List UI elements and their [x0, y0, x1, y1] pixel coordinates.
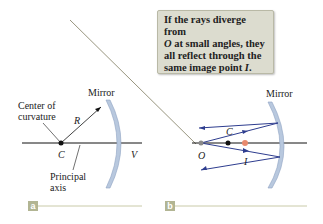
- callout-line1: If the rays diverge from: [164, 14, 267, 38]
- center-point-b: [226, 141, 231, 146]
- image-point-i: [242, 140, 248, 146]
- panel-b-tag: b: [165, 201, 175, 211]
- center-label-line1: Center of: [18, 100, 56, 111]
- mirror-label-a: Mirror: [88, 87, 115, 98]
- v-label: V: [131, 149, 137, 160]
- center-label-line2: curvature: [18, 111, 56, 122]
- c-label-b: C: [226, 126, 233, 137]
- c-label-a: C: [58, 149, 65, 160]
- mirror-b: [268, 102, 284, 188]
- axis-label-line1: Principal: [50, 171, 86, 182]
- axis-label-line2: axis: [50, 182, 66, 193]
- callout-box: If the rays diverge from O at small angl…: [157, 10, 274, 74]
- mirror-a: [106, 100, 121, 188]
- center-point: [59, 141, 64, 146]
- radius-arrow: [61, 107, 101, 143]
- object-point-o: [199, 141, 204, 146]
- o-label: O: [198, 150, 205, 161]
- panel-a-tag: a: [28, 201, 38, 211]
- mirror-label-b: Mirror: [266, 88, 293, 99]
- axis-leader-line: [73, 145, 80, 170]
- callout-line4: same image point I.: [164, 62, 267, 74]
- rays: [199, 123, 280, 170]
- i-label: I: [244, 156, 247, 167]
- radius-label: R: [74, 115, 80, 126]
- callout-line2: O at small angles, they: [164, 38, 267, 50]
- center-leader-line: [43, 123, 61, 143]
- callout-line3: all reflect through the: [164, 50, 267, 62]
